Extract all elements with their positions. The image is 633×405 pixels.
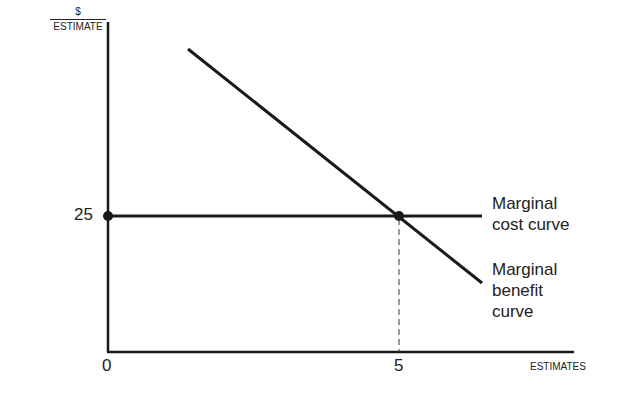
marginal-cost-label-line-1: Marginal <box>492 193 569 214</box>
marginal-benefit-label-line-1: Marginal <box>492 259 557 280</box>
marginal-cost-label: Marginal cost curve <box>492 193 569 235</box>
x-tick-0: 0 <box>102 356 111 376</box>
y-axis-label-denominator: ESTIMATE <box>50 20 106 33</box>
marginal-cost-label-line-2: cost curve <box>492 214 569 235</box>
marginal-benefit-label: Marginal benefit curve <box>492 259 557 322</box>
marginal-benefit-label-line-2: benefit <box>492 280 557 301</box>
y-tick-25: 25 <box>74 205 93 225</box>
y-intercept-point <box>103 211 113 221</box>
x-tick-5: 5 <box>394 356 403 376</box>
equilibrium-point <box>394 211 404 221</box>
y-axis-label: $ ESTIMATE <box>50 6 106 33</box>
y-axis-label-numerator: $ <box>50 6 106 20</box>
x-axis-label: ESTIMATES <box>530 361 586 372</box>
marginal-benefit-line <box>188 49 482 283</box>
marginal-benefit-label-line-3: curve <box>492 301 557 322</box>
